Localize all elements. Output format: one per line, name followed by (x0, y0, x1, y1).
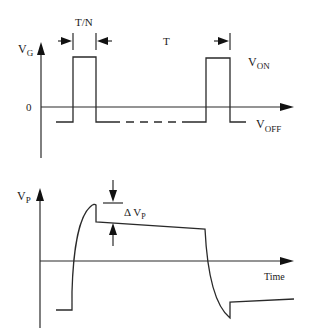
vg-waveform-pulse-2 (190, 58, 246, 122)
vg-x-axis-arrow-icon (280, 103, 294, 111)
tn-right-arrow-icon (97, 37, 108, 45)
gate-voltage-panel: VG 0 T/N T VON VOFF (18, 16, 294, 158)
period-label: T (163, 35, 170, 47)
pulse-width-label: T/N (75, 16, 93, 28)
tn-left-arrow-icon (61, 37, 72, 45)
v-on-label: VON (248, 55, 270, 71)
pixel-voltage-panel: VP Time Δ VP (17, 180, 294, 328)
zero-label: 0 (26, 101, 32, 113)
vg-waveform-pulse-1 (56, 57, 112, 122)
v-off-label: VOFF (256, 117, 281, 134)
waveform-diagram: VG 0 T/N T VON VOFF VP Tim (0, 0, 309, 336)
dvp-top-arrow-icon (109, 190, 117, 202)
time-label: Time (264, 271, 285, 282)
vg-axis-label: VG (18, 42, 34, 58)
dvp-bottom-arrow-icon (109, 223, 117, 235)
vg-y-axis-arrow-icon (37, 42, 45, 55)
t-arrow-icon (218, 37, 229, 45)
time-axis-arrow-icon (280, 257, 294, 265)
delta-vp-label: Δ VP (124, 206, 146, 221)
vp-y-axis-arrow-icon (36, 188, 44, 201)
vp-axis-label: VP (17, 189, 31, 205)
